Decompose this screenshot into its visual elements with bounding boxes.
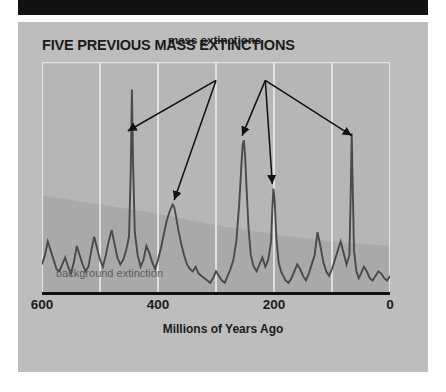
x-tick-label-400: 400 [147, 297, 170, 312]
x-tick-label-600: 600 [31, 297, 54, 312]
plot-area [42, 62, 390, 292]
x-tick-label-200: 200 [263, 297, 286, 312]
top-banner-bar [18, 0, 428, 15]
figure-root: FIVE PREVIOUS MASS EXTINCTIONS mass exti… [0, 0, 446, 392]
background-extinction-label: background extinction [56, 267, 163, 279]
chart-panel: FIVE PREVIOUS MASS EXTINCTIONS mass exti… [18, 22, 428, 372]
mass-extinctions-annotation-label: mass extinctions [168, 34, 261, 46]
x-tick-label-0: 0 [386, 297, 394, 312]
x-axis-caption: Millions of Years Ago [18, 322, 428, 336]
extinction-chart-svg [42, 62, 390, 292]
x-axis-line [42, 292, 390, 295]
